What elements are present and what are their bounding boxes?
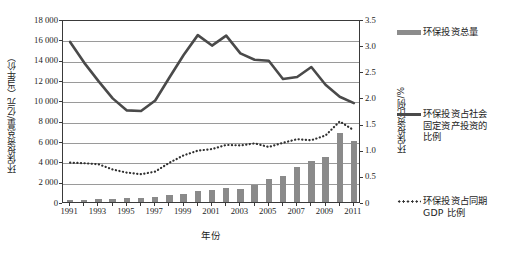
- gdp-ratio-line: [70, 121, 354, 174]
- right-axis-tick-label: 0.5: [365, 172, 395, 181]
- right-axis-tick-mark: [360, 20, 363, 21]
- legend-label-gdp-ratio: 环保投资占同期 GDP 比例: [423, 195, 487, 218]
- x-axis-tick-mark: [254, 203, 255, 206]
- chart-figure: 环保投资总量/亿元（当年价） 环保投资比例/% 年份 02 0004 0006 …: [0, 0, 523, 254]
- left-axis-tick-mark: [59, 203, 62, 204]
- legend-label-total-investment: 环保投资总量: [423, 26, 478, 38]
- x-axis-tick-label: 2001: [202, 207, 219, 216]
- left-axis-tick-label: 16 000: [14, 36, 58, 45]
- x-axis-tick-label: 2003: [231, 207, 248, 216]
- x-axis-tick-mark: [197, 203, 198, 206]
- right-axis-tick-label: 0: [365, 199, 395, 208]
- x-axis-tick-label: 1999: [174, 207, 191, 216]
- left-axis-tick-label: 10 000: [14, 97, 58, 106]
- x-axis-tick-mark: [140, 203, 141, 206]
- plot-area: [62, 20, 360, 203]
- left-axis-tick-label: 12 000: [14, 77, 58, 86]
- x-axis-tick-label: 2011: [344, 207, 361, 216]
- right-axis-tick-mark: [360, 177, 363, 178]
- right-axis-tick-mark: [360, 72, 363, 73]
- x-axis-tick-mark: [168, 203, 169, 206]
- left-axis-tick-label: 2 000: [14, 178, 58, 187]
- legend-item-total-investment: 环保投资总量: [397, 26, 478, 38]
- bar-swatch-icon: [397, 30, 421, 35]
- x-axis-tick-mark: [112, 203, 113, 206]
- right-axis-tick-mark: [360, 98, 363, 99]
- x-axis-tick-mark: [282, 203, 283, 206]
- left-axis-title-text: 环保投资总量/亿元（当年价）: [4, 53, 17, 173]
- x-axis-tick-label: 1993: [89, 207, 106, 216]
- x-axis-tick-label: 1995: [117, 207, 134, 216]
- dotted-line-swatch-icon: [397, 200, 421, 203]
- right-axis-tick-label: 2.5: [365, 68, 395, 77]
- x-axis-tick-label: 2009: [316, 207, 333, 216]
- x-axis-tick-mark: [83, 203, 84, 206]
- x-axis-tick-label: 2005: [259, 207, 276, 216]
- left-axis-tick-label: 4 000: [14, 158, 58, 167]
- x-axis-tick-mark: [225, 203, 226, 206]
- x-axis-tick-label: 1997: [146, 207, 163, 216]
- x-axis-tick-label: 1991: [60, 207, 77, 216]
- right-axis-tick-label: 2.0: [365, 94, 395, 103]
- left-axis-tick-label: 6 000: [14, 138, 58, 147]
- right-axis-tick-mark: [360, 125, 363, 126]
- left-axis-tick-label: 8 000: [14, 117, 58, 126]
- x-axis-tick-label: 2007: [287, 207, 304, 216]
- left-axis-tick-label: 14 000: [14, 56, 58, 65]
- right-axis-tick-label: 3.5: [365, 16, 395, 25]
- right-axis-tick-mark: [360, 151, 363, 152]
- x-axis-title: 年份: [62, 228, 360, 242]
- right-axis-tick-mark: [360, 203, 363, 204]
- x-axis-tick-mark: [339, 203, 340, 206]
- legend-item-gdp-ratio: 环保投资占同期 GDP 比例: [397, 195, 487, 218]
- fixed-asset-ratio-line: [70, 35, 354, 111]
- line-series: [63, 21, 360, 203]
- solid-line-swatch-icon: [397, 113, 421, 116]
- right-axis-tick-label: 1.0: [365, 146, 395, 155]
- right-axis-tick-mark: [360, 46, 363, 47]
- legend-item-fixed-asset-ratio: 环保投资占社会 固定资产投资的 比例: [397, 108, 487, 143]
- left-axis-tick-label: 0: [14, 199, 58, 208]
- legend-label-fixed-asset-ratio: 环保投资占社会 固定资产投资的 比例: [423, 108, 487, 143]
- x-axis-tick-mark: [310, 203, 311, 206]
- right-axis-tick-label: 3.0: [365, 42, 395, 51]
- right-axis-tick-label: 1.5: [365, 120, 395, 129]
- left-axis-tick-label: 18 000: [14, 16, 58, 25]
